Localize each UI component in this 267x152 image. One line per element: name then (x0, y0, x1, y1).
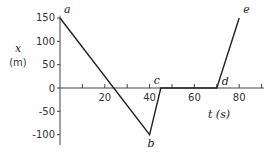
x-tick-label: 60 (188, 92, 201, 103)
point-label-c: c (154, 74, 160, 87)
point-label-d: d (222, 75, 229, 88)
x-axis-title: t (s) (208, 108, 230, 121)
y-tick-label: -100 (32, 129, 55, 140)
point-label-e: e (243, 3, 250, 16)
y-tick-label: -50 (39, 106, 55, 117)
y-axis-title: x (15, 42, 22, 55)
x-tick-label: 80 (233, 92, 246, 103)
point-label-b: b (148, 137, 155, 150)
y-tick-label: 0 (49, 83, 55, 94)
y-tick-label: 100 (36, 36, 55, 47)
x-tick-label: 20 (98, 92, 111, 103)
y-tick-label: 50 (42, 59, 55, 70)
y-axis-unit: (m) (9, 57, 27, 68)
point-label-a: a (64, 3, 71, 16)
x-tick-label: 40 (143, 92, 156, 103)
y-tick-label: 150 (36, 12, 55, 23)
point-labels: abcde (64, 3, 250, 150)
position-time-chart: 150100500-50-10020406080 abcde x (m) t (… (0, 0, 267, 152)
